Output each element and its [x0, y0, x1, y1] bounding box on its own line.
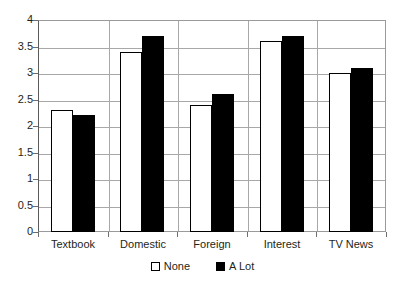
y-axis-tick-label: 3.5	[5, 41, 33, 52]
bar-foreign-none	[190, 105, 212, 232]
bar-domestic-a-lot	[142, 36, 164, 232]
legend-swatch-icon	[216, 262, 225, 271]
bar-interest-none	[260, 41, 282, 232]
legend-swatch-icon	[151, 262, 160, 271]
y-axis-tick-label: 3	[5, 67, 33, 78]
x-axis-tick-mark	[108, 232, 109, 237]
bar-foreign-a-lot	[212, 94, 234, 232]
y-axis-tick-label: 2	[5, 120, 33, 131]
legend-label: None	[164, 260, 190, 273]
y-axis-tick-label: 2.5	[5, 94, 33, 105]
y-axis-tick-label: 0.5	[5, 200, 33, 211]
bars-layer	[38, 20, 386, 232]
legend-item-a-lot[interactable]: A Lot	[216, 260, 254, 273]
x-axis-tick-mark	[386, 232, 387, 237]
legend-item-none[interactable]: None	[151, 260, 190, 273]
x-axis-tick-mark	[177, 232, 178, 237]
bar-tv-news-none	[329, 73, 351, 232]
y-axis-tick-label: 4	[5, 14, 33, 25]
x-axis-tick-mark	[38, 232, 39, 237]
x-axis-category-label-domestic: Domestic	[108, 238, 178, 251]
x-axis-category-label-foreign: Foreign	[177, 238, 247, 251]
y-axis-tick-label: 0	[5, 226, 33, 237]
legend: NoneA Lot	[0, 260, 405, 273]
bar-textbook-none	[51, 110, 73, 232]
x-axis-tick-mark	[316, 232, 317, 237]
bar-domestic-none	[120, 52, 142, 232]
y-axis-tick-label: 1	[5, 173, 33, 184]
bar-tv-news-a-lot	[351, 68, 373, 232]
bar-textbook-a-lot	[73, 115, 95, 232]
x-axis-category-label-tv-news: TV News	[316, 238, 386, 251]
bar-chart: 00.511.522.533.54 TextbookDomesticForeig…	[0, 0, 405, 288]
y-axis-tick-label: 1.5	[5, 147, 33, 158]
x-axis-tick-mark	[247, 232, 248, 237]
bar-interest-a-lot	[282, 36, 304, 232]
x-axis-category-label-interest: Interest	[247, 238, 317, 251]
legend-label: A Lot	[229, 260, 254, 273]
x-axis-category-label-textbook: Textbook	[38, 238, 108, 251]
